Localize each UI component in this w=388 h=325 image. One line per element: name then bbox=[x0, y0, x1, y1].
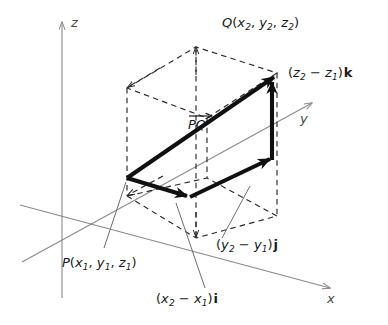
leader-line-i bbox=[176, 203, 205, 288]
q-comma-2: , bbox=[273, 15, 277, 30]
q-y: y bbox=[259, 15, 267, 30]
component-vector-i bbox=[127, 178, 187, 196]
i-unit-vector: i bbox=[213, 291, 218, 306]
q-close-paren: ) bbox=[294, 15, 299, 30]
j-term1-sub: 2 bbox=[229, 244, 235, 254]
component-label-j: (y2 − y1)j bbox=[216, 238, 278, 254]
p-comma-1: , bbox=[89, 255, 93, 270]
component-label-k: (z2 − z1)k bbox=[288, 66, 353, 82]
z-axis-label: z bbox=[71, 16, 78, 29]
dashed-box bbox=[127, 47, 277, 238]
x-axis bbox=[20, 205, 330, 288]
p-x: x bbox=[75, 255, 83, 270]
j-close-paren: ) bbox=[268, 237, 273, 252]
p-close-paren: ) bbox=[131, 255, 136, 270]
k-operator: − bbox=[310, 65, 321, 80]
vector-pq-text-q: Q bbox=[196, 117, 206, 132]
j-unit-vector: j bbox=[273, 237, 278, 252]
point-label-p: P(x1, y1, z1) bbox=[62, 256, 137, 272]
i-term1: x bbox=[161, 291, 169, 306]
component-label-i: (x2 − x1)i bbox=[156, 292, 218, 308]
leader-line-j bbox=[222, 186, 250, 238]
k-unit-vector: k bbox=[343, 65, 353, 80]
i-term2: x bbox=[194, 291, 202, 306]
y-axis-label: y bbox=[300, 112, 308, 125]
component-vector-j bbox=[190, 159, 270, 197]
q-x: x bbox=[237, 15, 245, 30]
vector-pq-text-p: P bbox=[188, 117, 196, 132]
q-name: Q bbox=[222, 15, 232, 30]
diagram-canvas bbox=[0, 0, 388, 325]
vector-label-pq: PQ bbox=[188, 112, 214, 131]
vector-overbar-arrow-icon bbox=[188, 112, 214, 119]
box-top-face bbox=[127, 47, 277, 118]
k-term2: z bbox=[325, 65, 332, 80]
k-term1-sub: 2 bbox=[300, 72, 306, 82]
p-comma-2: , bbox=[110, 255, 114, 270]
vector-diagram-figure: z y x Q(x2, y2, z2) P(x1, y1, z1) PQ (z2… bbox=[0, 0, 388, 325]
p-y: y bbox=[97, 255, 105, 270]
p-name: P bbox=[62, 255, 70, 270]
x-axis-label: x bbox=[327, 292, 335, 305]
p-z: z bbox=[119, 255, 126, 270]
i-close-paren: ) bbox=[208, 291, 213, 306]
k-term1: z bbox=[293, 65, 300, 80]
q-z: z bbox=[281, 15, 288, 30]
j-operator: − bbox=[239, 237, 250, 252]
i-operator: − bbox=[179, 291, 190, 306]
i-term1-sub: 2 bbox=[169, 298, 175, 308]
vector-path-group bbox=[127, 77, 274, 197]
j-term2: y bbox=[254, 237, 262, 252]
leader-lines bbox=[104, 182, 250, 288]
j-term1: y bbox=[221, 237, 229, 252]
q-comma-1: , bbox=[251, 15, 255, 30]
point-label-q: Q(x2, y2, z2) bbox=[222, 16, 299, 32]
box-bottom-face bbox=[127, 178, 277, 238]
dashed-box-arrows bbox=[128, 47, 196, 237]
